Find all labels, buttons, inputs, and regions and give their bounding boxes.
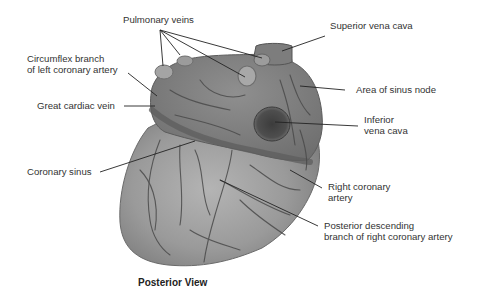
label-posterior-desc-line2: branch of right coronary artery xyxy=(324,231,453,242)
label-great-cardiac-vein: Great cardiac vein xyxy=(37,100,115,111)
label-area-sinus-node: Area of sinus node xyxy=(356,84,436,95)
view-caption: Posterior View xyxy=(138,277,207,288)
label-inferior-vc-line1: Inferior xyxy=(364,114,394,125)
label-circumflex-line2: of left coronary artery xyxy=(27,64,118,75)
label-coronary-sinus: Coronary sinus xyxy=(27,166,92,177)
label-inferior-vc-line2: vena cava xyxy=(364,125,408,136)
label-posterior-desc-line1: Posterior descending xyxy=(324,220,414,231)
heart-diagram: Pulmonary veins Superior vena cava Circu… xyxy=(0,0,484,298)
label-circumflex-line1: Circumflex branch xyxy=(27,53,104,64)
inferior-vena-cava xyxy=(254,107,290,141)
label-right-coronary-line1: Right coronary xyxy=(328,181,390,192)
label-superior-vena-cava: Superior vena cava xyxy=(330,20,413,31)
label-right-coronary-line2: artery xyxy=(328,192,353,203)
label-pulmonary-veins: Pulmonary veins xyxy=(123,14,194,25)
heart-illustration xyxy=(0,0,484,298)
